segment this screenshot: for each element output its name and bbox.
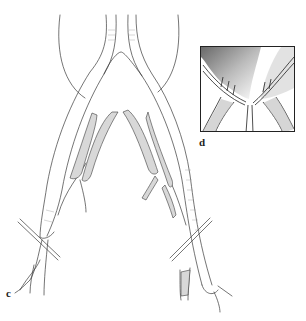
graft-crotch: [104, 52, 142, 76]
central-vessel: [246, 105, 248, 132]
femoral-right-shaded: [181, 270, 190, 296]
panel-label-c: c: [6, 287, 11, 299]
tissue-shading: [261, 47, 295, 99]
clamp-left: [20, 219, 60, 257]
graft-right-outer: [128, 15, 202, 285]
illustration-panel-d-inset: [200, 46, 295, 132]
graft-left-outer: [40, 15, 106, 237]
clamp-left: [18, 222, 58, 260]
iliac-right-stump: [142, 176, 158, 200]
graft-right-tip: [202, 285, 218, 294]
panel-label-d: d: [199, 136, 205, 148]
femoral-left: [15, 240, 42, 293]
femoral-right: [214, 292, 220, 312]
clamp-right: [170, 218, 210, 258]
abdominal-outline: [158, 15, 179, 92]
clamp-right: [172, 221, 212, 261]
iliac-right-medial: [123, 110, 158, 174]
femoral-left: [20, 260, 40, 290]
central-vessel: [252, 105, 253, 132]
abdominal-outline: [59, 15, 85, 98]
vessel-left: [80, 180, 86, 212]
clamp-right-tip: [218, 286, 232, 296]
